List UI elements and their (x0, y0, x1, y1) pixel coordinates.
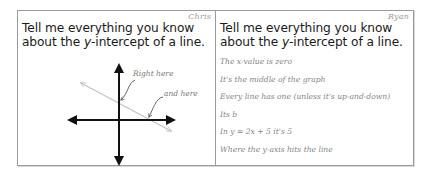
answer-list: The x-value is zero It's the middle of t… (220, 56, 409, 162)
answer-item: It's the middle of the graph (220, 74, 409, 92)
answer-item: Every line has one (unless it's up-and-d… (220, 91, 409, 109)
answer-item: Its b (220, 109, 409, 127)
ryan-response-panel: Ryan Tell me everything you know about t… (216, 11, 413, 165)
answer-item: In y = 2x + 5 it's 5 (220, 126, 409, 144)
chris-response-panel: Chris Tell me everything you know about … (18, 11, 216, 165)
sloped-line (81, 83, 171, 131)
prompt-variable: y (282, 35, 289, 49)
annotation-arrow-and-here (149, 97, 163, 117)
prompt-text: Tell me everything you know about the y-… (220, 21, 409, 49)
author-label: Ryan (388, 12, 409, 21)
prompt-part2: -intercept of a line. (289, 35, 403, 49)
answer-item: The x-value is zero (220, 56, 409, 74)
annotation-arrow-right-here (121, 80, 135, 100)
answer-item: Where the y-axis hits the line (220, 144, 409, 162)
annotation-right-here: Right here (133, 69, 173, 78)
student-responses-card: Chris Tell me everything you know about … (17, 10, 414, 166)
annotation-and-here: and here (164, 89, 198, 98)
